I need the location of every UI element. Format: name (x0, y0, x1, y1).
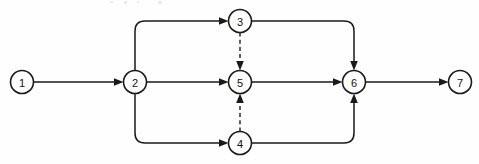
node-3-label: 3 (237, 16, 243, 28)
node-1[interactable]: 1 (11, 71, 34, 94)
edge-3-to-6 (252, 21, 358, 71)
node-4-label: 4 (237, 138, 243, 150)
node-7-label: 7 (457, 77, 463, 89)
node-1-label: 1 (19, 77, 25, 89)
arrowhead-into-5-left (219, 78, 229, 86)
arrowhead-into-3-left (219, 17, 229, 25)
arrowhead-into-4-left (219, 139, 229, 147)
arrowhead-into-6-bottom (350, 94, 358, 104)
edge-2-to-3 (135, 17, 229, 70)
arrowhead-into-7-left (439, 78, 449, 86)
node-6-label: 6 (351, 77, 357, 89)
edge-2-to-5 (147, 78, 229, 86)
edge-4-to-6 (252, 94, 358, 144)
node-4[interactable]: 4 (229, 132, 252, 155)
edge-2-to-4 (135, 94, 229, 147)
arrowhead-into-5-top (236, 61, 244, 71)
diagram-svg: 1 2 3 4 5 6 7 (0, 0, 479, 164)
node-3[interactable]: 3 (229, 10, 252, 33)
edge-4-to-5-dummy (236, 94, 244, 132)
arrowhead-into-5-bottom (236, 94, 244, 104)
node-6[interactable]: 6 (343, 71, 366, 94)
arrowhead-into-6-top (350, 61, 358, 71)
edge-6-to-7 (366, 78, 449, 86)
edge-5-to-6 (252, 78, 343, 86)
edge-3-to-5-dummy (236, 33, 244, 71)
node-7[interactable]: 7 (449, 71, 472, 94)
arrowhead-into-2-left (114, 78, 124, 86)
network-diagram-canvas: 1 2 3 4 5 6 7 (0, 0, 479, 164)
node-2[interactable]: 2 (124, 71, 147, 94)
node-2-label: 2 (132, 77, 138, 89)
edge-1-to-2 (34, 78, 124, 86)
arrowhead-into-6-left (333, 78, 343, 86)
node-5-label: 5 (237, 77, 243, 89)
node-5[interactable]: 5 (229, 71, 252, 94)
